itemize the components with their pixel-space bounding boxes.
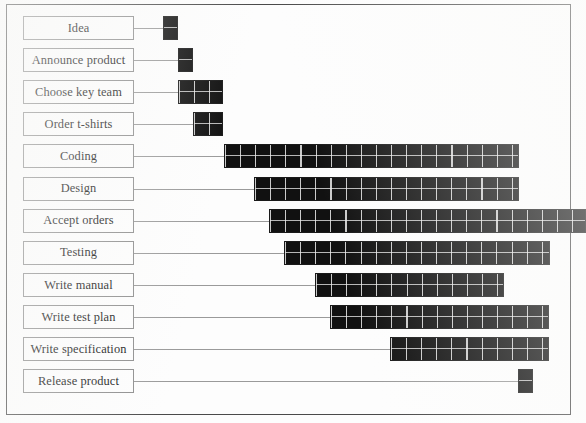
task-label-text: Announce product xyxy=(32,54,125,66)
task-bar[interactable] xyxy=(224,144,519,168)
task-bar-cell-grid xyxy=(331,306,548,328)
task-label-box[interactable]: Coding xyxy=(23,144,134,168)
gantt-row: Coding xyxy=(0,141,586,173)
task-label-box[interactable]: Design xyxy=(23,177,134,201)
task-bar-cell-grid xyxy=(179,81,222,103)
task-bar-cell-grid xyxy=(194,113,222,135)
task-bar-cell-grid xyxy=(285,242,549,264)
task-connector-line xyxy=(134,92,178,93)
task-label-text: Testing xyxy=(60,246,97,258)
task-bar-cell-grid xyxy=(270,210,585,232)
task-bar[interactable] xyxy=(193,112,223,136)
task-bar[interactable] xyxy=(269,209,586,233)
task-connector-line xyxy=(134,156,224,157)
task-connector-line xyxy=(134,317,330,318)
task-label-text: Write test plan xyxy=(42,311,116,323)
task-label-text: Design xyxy=(61,182,97,194)
task-label-box[interactable]: Write specification xyxy=(23,337,134,361)
task-bar[interactable] xyxy=(518,369,533,393)
task-label-box[interactable]: Testing xyxy=(23,241,134,265)
task-label-box[interactable]: Write manual xyxy=(23,273,134,297)
task-bar[interactable] xyxy=(390,337,549,361)
task-label-text: Write specification xyxy=(30,343,126,355)
task-bar[interactable] xyxy=(284,241,550,265)
gantt-row: Write specification xyxy=(0,334,586,366)
task-bar[interactable] xyxy=(178,48,193,72)
gantt-chart: IdeaAnnounce productChoose key teamOrder… xyxy=(0,0,586,423)
task-connector-line xyxy=(134,189,254,190)
task-label-text: Order t-shirts xyxy=(45,118,113,130)
task-connector-line xyxy=(134,285,315,286)
task-bar-cell-grid xyxy=(164,17,177,39)
task-label-text: Accept orders xyxy=(43,214,113,226)
task-connector-line xyxy=(134,60,178,61)
gantt-row: Testing xyxy=(0,238,586,270)
task-label-text: Write manual xyxy=(44,279,112,291)
task-connector-line xyxy=(134,124,193,125)
task-label-box[interactable]: Write test plan xyxy=(23,305,134,329)
task-label-box[interactable]: Announce product xyxy=(23,48,134,72)
task-bar[interactable] xyxy=(315,273,504,297)
task-bar-cell-grid xyxy=(179,49,192,71)
task-label-box[interactable]: Order t-shirts xyxy=(23,112,134,136)
task-connector-line xyxy=(134,221,269,222)
gantt-row: Release product xyxy=(0,366,586,398)
gantt-row: Announce product xyxy=(0,45,586,77)
gantt-row: Accept orders xyxy=(0,206,586,238)
gantt-row: Design xyxy=(0,174,586,206)
task-label-box[interactable]: Release product xyxy=(23,369,134,393)
task-bar[interactable] xyxy=(178,80,223,104)
gantt-row: Idea xyxy=(0,13,586,45)
task-bar-cell-grid xyxy=(519,370,532,392)
task-connector-line xyxy=(134,28,163,29)
gantt-row: Choose key team xyxy=(0,77,586,109)
gantt-row: Write manual xyxy=(0,270,586,302)
task-bar[interactable] xyxy=(163,16,178,40)
task-bar[interactable] xyxy=(330,305,549,329)
task-label-text: Coding xyxy=(60,150,97,162)
task-label-text: Choose key team xyxy=(35,86,122,98)
task-bar[interactable] xyxy=(254,177,519,201)
gantt-row: Write test plan xyxy=(0,302,586,334)
task-bar-cell-grid xyxy=(316,274,503,296)
gantt-row: Order t-shirts xyxy=(0,109,586,141)
task-label-box[interactable]: Idea xyxy=(23,16,134,40)
task-bar-cell-grid xyxy=(225,145,518,167)
task-label-text: Idea xyxy=(68,22,90,34)
task-connector-line xyxy=(134,253,284,254)
task-label-box[interactable]: Accept orders xyxy=(23,209,134,233)
task-label-box[interactable]: Choose key team xyxy=(23,80,134,104)
task-connector-line xyxy=(134,349,390,350)
task-label-text: Release product xyxy=(38,375,119,387)
task-connector-line xyxy=(134,381,518,382)
task-bar-cell-grid xyxy=(391,338,548,360)
task-bar-cell-grid xyxy=(255,178,518,200)
